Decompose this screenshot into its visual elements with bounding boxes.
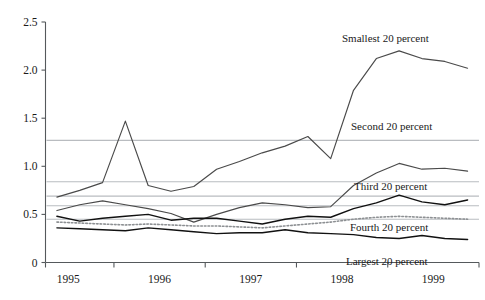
y-tick-label: 1.0	[23, 160, 38, 172]
x-tick-label: 1996	[148, 273, 171, 285]
series-annotations: Smallest 20 percentSecond 20 percentThir…	[342, 32, 432, 267]
series-annotation-label: Fourth 20 percent	[350, 221, 428, 233]
y-tick-label: 2.5	[23, 16, 38, 28]
y-axis: 00.51.01.52.02.5	[23, 16, 45, 269]
x-tick-label: 1999	[422, 273, 445, 285]
series-annotation-label: Second 20 percent	[351, 120, 432, 132]
series-annotation-label: Third 20 percent	[354, 180, 427, 192]
x-tick-label: 1998	[331, 273, 354, 285]
y-tick-label: 0	[32, 257, 38, 269]
y-tick-label: 1.5	[23, 112, 38, 124]
series-line	[57, 163, 468, 222]
x-tick-label: 1995	[57, 273, 80, 285]
y-tick-label: 2.0	[23, 64, 38, 76]
x-tick-label: 1997	[239, 273, 262, 285]
data-series-group	[57, 51, 468, 240]
series-annotation-label: Largest 20 percent	[346, 255, 428, 267]
chart-svg: 00.51.01.52.02.5 19951996199719981999 Sm…	[0, 0, 485, 300]
y-tick-label: 0.5	[23, 208, 38, 220]
line-chart: 00.51.01.52.02.5 19951996199719981999 Sm…	[0, 0, 485, 300]
series-annotation-label: Smallest 20 percent	[342, 32, 429, 44]
